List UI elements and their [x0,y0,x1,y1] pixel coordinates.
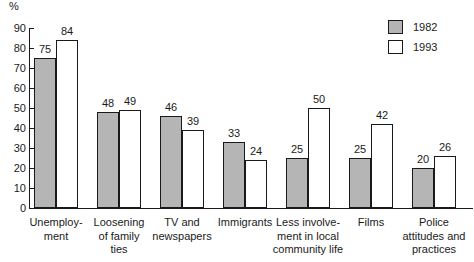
bar-chart: % 0102030405060708090 758448494639332425… [0,0,474,262]
legend-swatch-icon [388,40,403,54]
y-axis-tick-label: 90 [0,23,26,34]
bar-value-label: 26 [428,142,462,153]
bar [286,158,308,208]
bar-value-label: 46 [154,102,188,113]
y-axis-tick-label: 50 [0,103,26,114]
x-axis-category-label: Police attitudes and practices [394,216,474,257]
bar [119,110,141,208]
y-axis-tick-label: 10 [0,183,26,194]
bar [308,108,330,208]
bar [97,112,119,208]
bar-value-label: 42 [365,110,399,121]
y-axis-tick-label: 30 [0,143,26,154]
bar [434,156,456,208]
y-axis-tick-label: 70 [0,63,26,74]
bar-value-label: 84 [50,26,84,37]
y-axis-tick [29,28,34,29]
bar [182,130,204,208]
bar [371,124,393,208]
y-axis-tick-label: 80 [0,43,26,54]
y-axis-tick-label: 20 [0,163,26,174]
y-axis-tick-label: 60 [0,83,26,94]
bar [160,116,182,208]
bar [34,58,56,208]
y-axis-tick-label: 40 [0,123,26,134]
bar-value-label: 50 [302,94,336,105]
legend-item-label: 1982 [413,21,437,33]
bar [56,40,78,208]
bar [349,158,371,208]
bar-value-label: 39 [176,116,210,127]
bar [412,168,434,208]
y-axis-line [29,28,30,208]
legend-item-label: 1993 [413,41,437,53]
x-axis-line [29,208,473,209]
bar [245,160,267,208]
y-axis-unit-label: % [9,1,19,12]
bar-value-label: 33 [217,128,251,139]
y-axis-tick-label: 0 [0,203,26,214]
bar-value-label: 49 [113,96,147,107]
bar-value-label: 24 [239,146,273,157]
legend-swatch-icon [388,20,403,34]
